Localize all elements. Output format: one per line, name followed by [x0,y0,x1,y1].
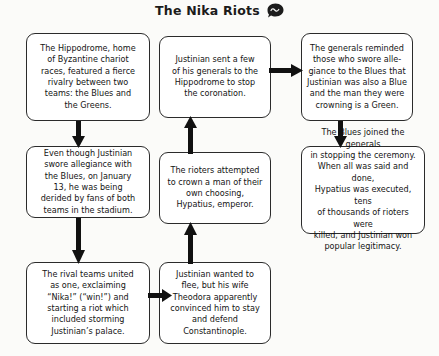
arrow-reminded-to-blues-joined [332,121,349,148]
flow-node-blues-joined: The Blues joined the generals in stoppin… [301,146,425,234]
flow-node-crown: The rioters attempted to crown a man of … [159,152,271,224]
arrow-nika-to-theodora [148,287,172,304]
arrow-generals-sent-to-reminded [269,62,303,79]
flow-node-theodora: Justinian wanted to flee, but his wife T… [159,262,271,344]
arrow-derided-to-nika [70,218,87,264]
arrow-crown-to-generals-sent [182,116,199,154]
flow-node-text: Justinian wanted to flee, but his wife T… [165,269,265,337]
speech-bubble-icon [267,3,284,18]
flow-node-generals-sent: Justinian sent a few of his generals to … [159,36,271,118]
flow-node-reminded: The generals reminded those who swore al… [301,33,413,121]
arrow-hippodrome-to-derided [70,121,87,148]
flow-node-text: The Hippodrome, home of Byzantine chario… [32,43,144,111]
flow-node-text: The rival teams united as one, exclaimin… [32,269,144,337]
flow-node-text: Even though Justinian swore allegiance w… [32,148,144,216]
flow-node-nika: The rival teams united as one, exclaimin… [26,262,150,344]
diagram-title: The Nika Riots [0,3,439,18]
flowchart-canvas: The Nika Riots The Hippodrome, home of B… [0,0,439,356]
flow-node-text: The Blues joined the generals in stoppin… [307,127,419,252]
flow-node-text: Justinian sent a few of his generals to … [165,54,265,100]
flow-node-derided: Even though Justinian swore allegiance w… [26,146,150,218]
flow-node-hippodrome: The Hippodrome, home of Byzantine chario… [26,33,150,121]
page-title: The Nika Riots [155,3,260,18]
arrow-theodora-to-crown [182,222,199,264]
flow-node-text: The generals reminded those who swore al… [307,43,407,111]
flow-node-text: The rioters attempted to crown a man of … [165,165,265,211]
